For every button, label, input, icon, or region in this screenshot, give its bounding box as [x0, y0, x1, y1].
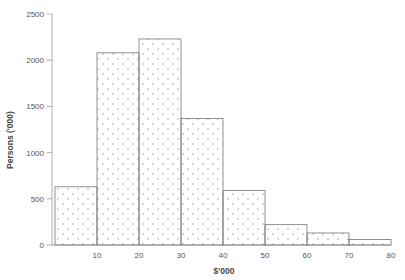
y-axis-title: Persons ('000) — [5, 111, 15, 169]
x-axis: 1020304050607080 — [52, 245, 396, 260]
x-tick-label: 50 — [261, 251, 270, 260]
x-tick-label: 30 — [177, 251, 186, 260]
histogram-bars — [55, 39, 391, 245]
x-tick-label: 40 — [219, 251, 228, 260]
histogram-bar-10-20 — [97, 53, 139, 245]
histogram-bar-60-70 — [307, 233, 349, 245]
histogram-bar-0-10 — [55, 187, 97, 245]
x-tick-label: 60 — [303, 251, 312, 260]
x-axis-title: $'000 — [214, 266, 235, 276]
histogram-bar-40-50 — [223, 190, 265, 245]
x-tick-label: 70 — [345, 251, 354, 260]
y-tick-label: 500 — [31, 195, 45, 204]
y-tick-label: 2000 — [26, 56, 44, 65]
y-tick-label: 0 — [40, 241, 45, 250]
histogram-bar-50-60 — [265, 225, 307, 245]
histogram-bar-30-40 — [181, 118, 223, 245]
y-tick-label: 1000 — [26, 149, 44, 158]
y-tick-label: 2500 — [26, 10, 44, 19]
x-tick-label: 20 — [135, 251, 144, 260]
histogram-bar-20-30 — [139, 39, 181, 245]
histogram-chart: 05001000150020002500 1020304050607080 Pe… — [0, 0, 405, 280]
y-axis: 05001000150020002500 — [26, 10, 52, 250]
x-tick-label: 10 — [93, 251, 102, 260]
y-tick-label: 1500 — [26, 102, 44, 111]
histogram-bar-70-80 — [349, 239, 391, 245]
x-tick-label: 80 — [387, 251, 396, 260]
